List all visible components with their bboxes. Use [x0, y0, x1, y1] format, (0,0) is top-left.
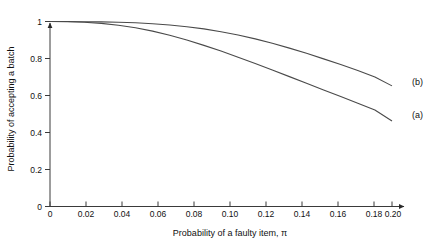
- series-label-a: (a): [412, 110, 423, 120]
- y-axis-ticks: [45, 22, 50, 207]
- curve-series-a: [50, 22, 392, 122]
- y-tick-label: 0.6: [20, 91, 42, 100]
- y-tick-label: 0: [20, 202, 42, 211]
- axes: [50, 23, 404, 207]
- y-tick-label: 0.2: [20, 165, 42, 174]
- y-tick-label: 0.4: [20, 128, 42, 137]
- x-axis-ticks: [50, 202, 392, 207]
- x-tick-label: 0.04: [114, 210, 131, 219]
- series-label-b: (b): [412, 77, 423, 87]
- curve-series-b: [50, 22, 392, 86]
- x-tick-label: 0: [48, 210, 53, 219]
- x-tick-label: 0.08: [186, 210, 203, 219]
- y-tick-label: 1: [20, 17, 42, 26]
- x-tick-label: 0.16: [330, 210, 347, 219]
- y-axis-title: Probability of accepting a batch: [6, 4, 20, 214]
- x-tick-label: 0.02: [78, 210, 95, 219]
- oc-curve-figure: 0 0.02 0.04 0.06 0.08 0.10 0.12 0.14 0.1…: [0, 0, 436, 248]
- x-tick-label: 0.06: [150, 210, 167, 219]
- x-tick-label: 0.14: [294, 210, 311, 219]
- x-tick-label: 0.20: [385, 210, 402, 219]
- x-axis-title: Probability of a faulty item, π: [50, 228, 410, 238]
- x-tick-label: 0.12: [258, 210, 275, 219]
- y-tick-label: 0.8: [20, 54, 42, 63]
- x-tick-label: 0.10: [222, 210, 239, 219]
- x-tick-label: 0.18: [366, 210, 383, 219]
